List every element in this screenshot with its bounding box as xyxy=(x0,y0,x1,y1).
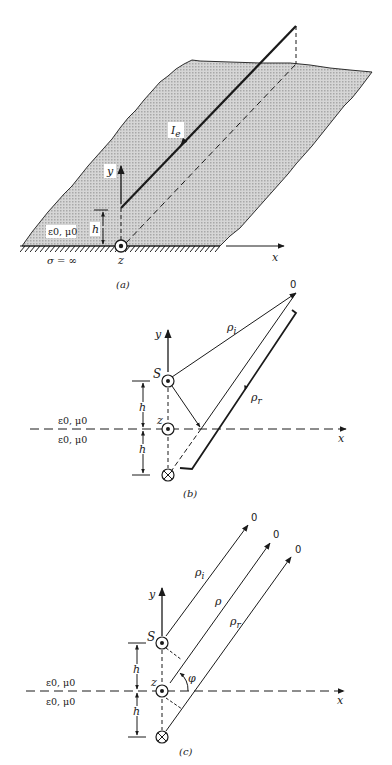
x-axis-label-c: x xyxy=(337,694,344,707)
observer-2-label-c: 0 xyxy=(273,529,279,540)
rho-incident-label-c: ρi xyxy=(194,566,204,581)
medium-upper-label-c: ε0, μ0 xyxy=(46,677,75,688)
source-label-b: S xyxy=(153,367,161,381)
y-axis-label-b: y xyxy=(154,328,162,341)
rho-label-c: ρ xyxy=(214,595,222,608)
observer-1-label-c: 0 xyxy=(251,512,257,523)
panel-a: Ie y h ε0, μ0 x z σ = ∞ (a) xyxy=(20,26,372,290)
height-upper-label-c: h xyxy=(133,663,140,676)
observer-3-label-c: 0 xyxy=(295,544,301,555)
z-axis-label-c: z xyxy=(150,676,157,689)
observer-label-b: 0 xyxy=(290,279,296,290)
rho-reflected-label-b: ρr xyxy=(250,391,262,406)
conductivity-label: σ = ∞ xyxy=(47,255,77,266)
y-axis-label-c: y xyxy=(148,588,156,601)
y-axis-label-a: y xyxy=(106,165,114,178)
height-label-a: h xyxy=(92,223,99,236)
source-label-c: S xyxy=(147,630,155,644)
x-axis-label-b: x xyxy=(338,432,345,445)
medium-lower-label-b: ε0, μ0 xyxy=(58,434,87,445)
height-lower-label-c: h xyxy=(133,705,140,718)
height-upper-label-b: h xyxy=(139,401,146,414)
rho-reflected-label-c: ρr xyxy=(229,615,241,630)
diagram-canvas: Ie y h ε0, μ0 x z σ = ∞ (a) 0 y ρi xyxy=(0,0,392,765)
medium-lower-label-c: ε0, μ0 xyxy=(46,696,75,707)
panel-c: 0 0 0 y ρi ρ ρr φ x S z xyxy=(26,512,344,757)
caption-c: (c) xyxy=(179,746,193,757)
rho-incident-label-b: ρi xyxy=(226,321,236,336)
ground-plane xyxy=(22,60,372,246)
caption-a: (a) xyxy=(116,279,130,290)
caption-b: (b) xyxy=(183,488,197,499)
z-axis-label-a: z xyxy=(117,254,124,267)
z-axis-label-b: z xyxy=(156,414,163,427)
medium-label-a: ε0, μ0 xyxy=(48,226,77,237)
panel-b: 0 y ρi ρr x S z xyxy=(30,279,346,499)
x-axis-label-a: x xyxy=(272,251,279,264)
height-lower-label-b: h xyxy=(139,443,146,456)
medium-upper-label-b: ε0, μ0 xyxy=(58,415,87,426)
angle-label-c: φ xyxy=(188,672,196,685)
